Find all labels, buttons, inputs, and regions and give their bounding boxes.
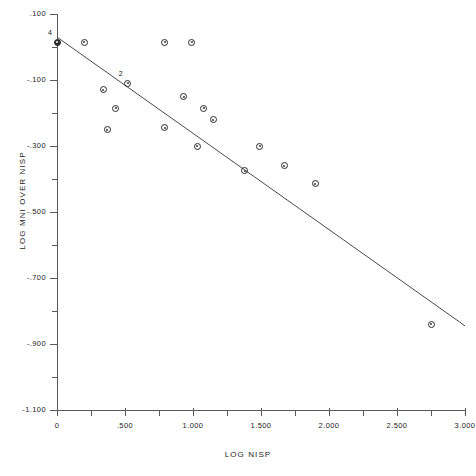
data-point-count-label: 2 [119,70,123,77]
data-point-marker [194,143,201,150]
data-point-marker [281,162,288,169]
scatter-plot: .100-.100-.300-.500-.700-.900-1.100 0.50… [0,0,476,476]
data-point-marker [256,143,263,150]
data-point-marker [100,86,107,93]
data-point-marker [428,321,435,328]
data-point-marker [124,80,131,87]
data-point-marker [161,39,168,46]
data-point-marker [112,105,119,112]
data-point-marker [161,124,168,131]
data-point-count-label: 4 [48,29,52,36]
data-point-marker [104,126,111,133]
data-point-marker [241,167,248,174]
data-point-marker [200,105,207,112]
data-point-marker [188,39,195,46]
data-point-marker [81,39,88,46]
data-point-marker [54,39,61,46]
data-point-group: 42 [0,0,476,476]
data-point-marker [180,93,187,100]
data-point-marker [312,180,319,187]
data-point-marker [210,116,217,123]
